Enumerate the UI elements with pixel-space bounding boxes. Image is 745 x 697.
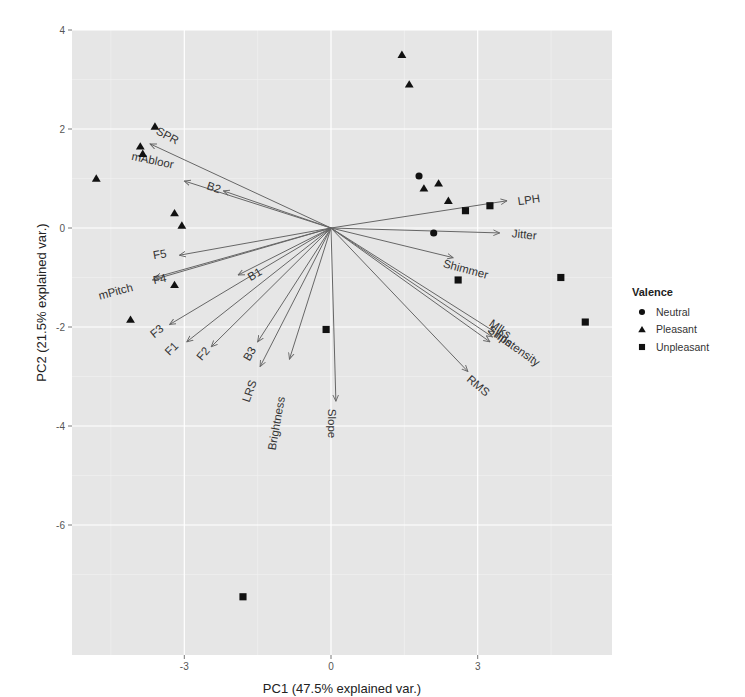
legend-items: NeutralPleasantUnpleasant (638, 306, 709, 353)
y-tick-label: 0 (59, 223, 65, 234)
point-unpleasant (462, 207, 469, 214)
point-unpleasant (486, 202, 493, 209)
loading-label: Slope (326, 409, 338, 438)
point-neutral (639, 309, 645, 315)
y-axis-title: PC2 (21.5% explained var.) (34, 223, 49, 381)
y-tick-label: -6 (56, 520, 65, 531)
point-unpleasant (639, 344, 645, 350)
point-neutral (415, 172, 422, 179)
panel-background (72, 30, 612, 655)
loading-label: F5 (152, 247, 167, 261)
y-axis: 420-2-4-6 (56, 25, 72, 531)
x-axis-title: PC1 (47.5% explained var.) (263, 681, 421, 696)
legend-label: Neutral (656, 306, 690, 318)
y-tick-label: -2 (56, 322, 65, 333)
x-tick-label: 3 (475, 661, 481, 672)
legend: Valence NeutralPleasantUnpleasant (632, 286, 709, 353)
pca-biplot: SPRmAbloorB2LPHJitterShimmerMlksSllipsmI… (0, 0, 745, 697)
legend-label: Pleasant (656, 323, 697, 335)
point-neutral (430, 229, 437, 236)
y-tick-label: 4 (59, 25, 65, 36)
y-tick-label: -4 (56, 421, 65, 432)
point-unpleasant (582, 318, 589, 325)
plot-panel: SPRmAbloorB2LPHJitterShimmerMlksSllipsmI… (72, 30, 612, 655)
point-unpleasant (455, 276, 462, 283)
point-unpleasant (323, 326, 330, 333)
point-unpleasant (239, 593, 246, 600)
point-pleasant (638, 326, 646, 332)
loading-label: Jitter (511, 227, 537, 241)
legend-label: Unpleasant (656, 341, 709, 353)
x-tick-label: -3 (180, 661, 189, 672)
legend-title: Valence (632, 286, 673, 298)
x-axis: -303 (180, 655, 481, 672)
point-unpleasant (557, 274, 564, 281)
x-tick-label: 0 (328, 661, 334, 672)
y-tick-label: 2 (59, 124, 65, 135)
